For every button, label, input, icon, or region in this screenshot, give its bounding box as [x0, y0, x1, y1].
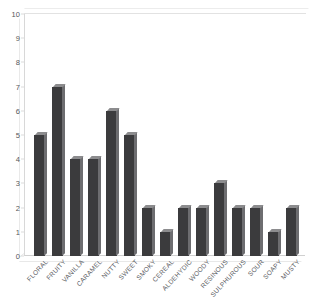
bar-side-face [98, 157, 101, 256]
bar [286, 208, 297, 256]
bar [214, 183, 225, 256]
x-axis-labels: FLORALFRUITYVANILLACARAMELNUTTYSWEETSMOK… [24, 258, 312, 308]
bar-top-cap [179, 205, 192, 208]
bar-top-cap [53, 84, 66, 87]
bar-side-face [152, 205, 155, 256]
x-axis-tick-label: FLORAL [25, 258, 49, 283]
bar-top-cap [107, 108, 120, 111]
bar-side-face [62, 84, 65, 256]
bar-side-face [296, 205, 299, 256]
bar-top-cap [287, 205, 300, 208]
bar-top-cap [251, 205, 264, 208]
bar [142, 208, 153, 256]
bar-top-cap [125, 132, 138, 135]
bar [250, 208, 261, 256]
bar [34, 135, 45, 256]
y-axis-tick-label: 7 [16, 82, 20, 91]
bar-top-cap [161, 229, 174, 232]
bar-side-face [206, 205, 209, 256]
bar-side-face [134, 132, 137, 256]
y-axis-tick-label: 4 [16, 155, 20, 164]
bar-chart-figure: 109876543210 FLORALFRUITYVANILLACARAMELN… [0, 0, 312, 308]
bar-side-face [80, 157, 83, 256]
bar [196, 208, 207, 256]
bar [88, 159, 99, 256]
bar-side-face [224, 181, 227, 256]
y-axis-tick-label: 10 [11, 10, 20, 19]
bar-top-cap [143, 205, 156, 208]
bar [124, 135, 135, 256]
bar [232, 208, 243, 256]
y-axis-tick-label: 0 [16, 252, 20, 261]
bar-series [24, 14, 306, 256]
bar [106, 111, 117, 256]
y-axis-tick-label: 5 [16, 131, 20, 140]
bar [268, 232, 279, 256]
top-cut-off-artifact [0, 0, 312, 6]
bar-top-cap [233, 205, 246, 208]
bar [52, 87, 63, 256]
bar-side-face [242, 205, 245, 256]
y-axis-tick-label: 8 [16, 58, 20, 67]
bar-side-face [278, 229, 281, 256]
y-axis-tick-label: 2 [16, 203, 20, 212]
bar [70, 159, 81, 256]
bar [178, 208, 189, 256]
bar [160, 232, 171, 256]
y-axis-tick-label: 9 [16, 34, 20, 43]
y-axis-tick-label: 3 [16, 179, 20, 188]
y-axis-tick-label: 6 [16, 106, 20, 115]
bar-side-face [170, 229, 173, 256]
bar-top-cap [197, 205, 210, 208]
y-axis-ticks: 109876543210 [0, 0, 24, 308]
bar-side-face [188, 205, 191, 256]
bar-top-cap [269, 229, 282, 232]
bar-top-cap [35, 132, 48, 135]
bar-side-face [44, 132, 47, 256]
bar-side-face [260, 205, 263, 256]
bar-side-face [116, 108, 119, 256]
y-axis-tick-label: 1 [16, 227, 20, 236]
